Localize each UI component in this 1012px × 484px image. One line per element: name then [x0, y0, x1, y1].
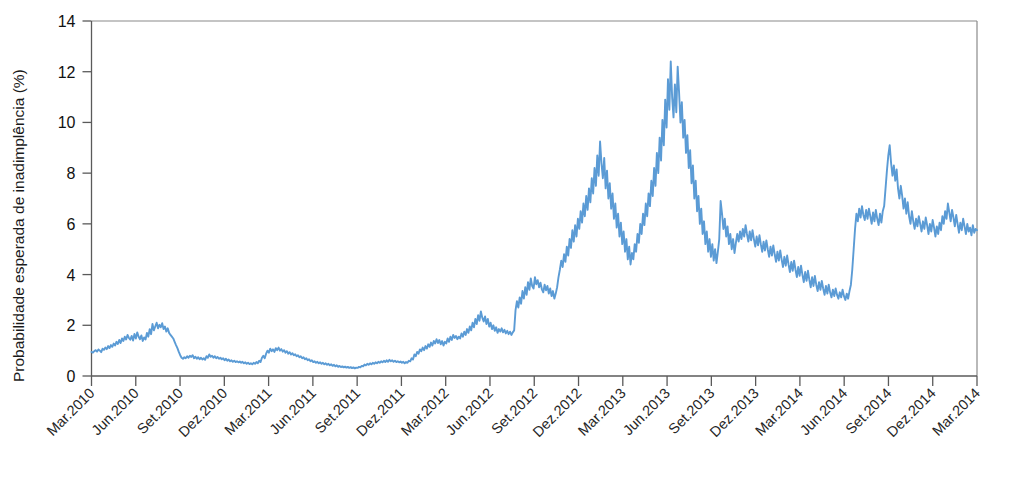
- chart-container: Probabilidade esperada de inadimplência …: [0, 0, 1012, 484]
- x-tick-label: Jun.2011: [266, 385, 319, 438]
- y-tick-label: 10: [58, 114, 76, 131]
- x-tick-label: Jun.2013: [620, 385, 674, 439]
- series-line-probabilidade: [92, 62, 978, 369]
- y-tick-label: 14: [58, 13, 76, 30]
- y-tick-label: 6: [67, 216, 76, 233]
- x-tick-label: Dez.2010: [175, 385, 230, 440]
- y-tick-label: 12: [58, 64, 76, 81]
- x-tick-label: Mar.2012: [398, 385, 452, 439]
- y-axis-title-text: Probabilidade esperada de inadimplência …: [10, 69, 27, 382]
- x-tick-label: Jun.2010: [88, 385, 142, 439]
- x-tick-label: Dez.2014: [884, 385, 939, 440]
- y-tick-label: 0: [67, 368, 76, 385]
- plot-frame: [92, 21, 978, 376]
- x-tick-label: Jun.2012: [443, 385, 497, 439]
- x-tick-label: Mar.2011: [221, 385, 274, 438]
- y-axis-ticks: 02468101214: [58, 13, 92, 385]
- data-series-group: [92, 62, 978, 369]
- x-tick-label: Dez.2013: [707, 385, 762, 440]
- y-axis-title: Probabilidade esperada de inadimplência …: [10, 69, 27, 382]
- y-tick-label: 2: [67, 317, 76, 334]
- x-tick-label: Mar.2010: [44, 385, 98, 439]
- x-tick-label: Mar.2013: [575, 385, 629, 439]
- x-tick-label: Mar.2014: [929, 385, 983, 439]
- x-axis-ticks: Mar.2010Jun.2010Set.2010Dez.2010Mar.2011…: [44, 376, 984, 440]
- x-tick-label: Dez.2012: [529, 385, 584, 440]
- x-tick-label: Dez.2011: [353, 385, 407, 439]
- y-tick-label: 8: [67, 165, 76, 182]
- y-tick-label: 4: [67, 267, 76, 284]
- x-tick-label: Mar.2014: [752, 385, 806, 439]
- line-chart: Probabilidade esperada de inadimplência …: [0, 0, 1012, 484]
- x-tick-label: Jun.2014: [797, 385, 851, 439]
